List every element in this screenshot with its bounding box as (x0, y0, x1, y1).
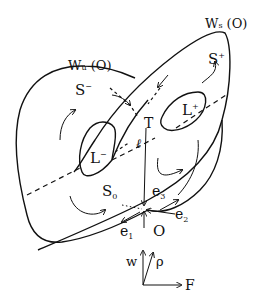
e3-line (144, 128, 146, 205)
axis-label-w: w (126, 254, 137, 269)
axis-rho-arrow (143, 253, 153, 285)
axis-label-rho: ρ (156, 254, 164, 269)
label-O: O (153, 222, 165, 240)
label-e2: e2 (175, 206, 188, 224)
label-e3: e3 (152, 183, 165, 201)
label-Ws: Ws (O) (205, 16, 247, 31)
label-L-plus: L+ (182, 101, 199, 119)
label-S-plus: S+ (208, 50, 225, 68)
axis-label-F: F (185, 277, 195, 293)
label-T: T (144, 115, 154, 131)
label-Wu: Wu (O) (68, 58, 111, 73)
label-ell: ℓ (136, 136, 142, 151)
label-L-minus: L− (90, 149, 107, 167)
manifold-diagram: Wu (O) Ws (O) S− S+ S0 L− L+ T ℓ e3 e2 e… (0, 0, 261, 306)
label-e1: e1 (120, 223, 133, 241)
label-S-zero: S0 (102, 182, 117, 201)
label-S-minus: S− (75, 81, 92, 99)
